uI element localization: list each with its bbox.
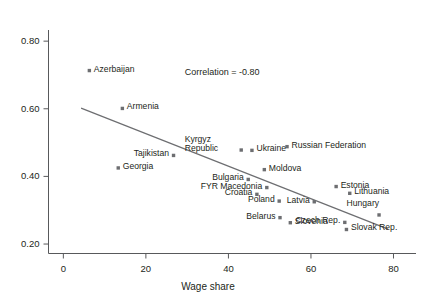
scatter-chart: 0.200.400.600.80020406080Wage shareCorre… [0,0,427,304]
data-point-label: Czech Rep. [190,216,340,226]
x-axis-tick-label: 20 [121,263,171,274]
data-point-marker [121,107,124,110]
data-point-marker [348,192,351,195]
data-point-marker [117,166,120,169]
data-point-label: Azerbaijan [94,65,244,75]
y-axis-tick-label: 0.20 [0,238,40,249]
data-point-label: Slovak Rep. [351,223,427,233]
data-point-marker [334,185,337,188]
data-point-marker [172,154,175,157]
data-point-label: Tajikistan [19,149,169,159]
y-axis-tick-label: 0.40 [0,170,40,181]
y-axis-tick-label: 0.80 [0,35,40,46]
data-point-label: Russian Federation [292,141,427,151]
x-axis-tick-label: 60 [286,263,336,274]
x-axis-tick-label: 40 [203,263,253,274]
data-point-label: Armenia [127,102,277,112]
data-point-label: Kyrgyz Republic [185,135,237,154]
data-point-label: Lithuania [354,187,427,197]
data-point-marker [345,228,348,231]
y-axis-tick-label: 0.60 [0,103,40,114]
data-point-marker [88,69,91,72]
x-axis-tick-label: 0 [38,263,88,274]
data-point-marker [240,148,243,151]
data-point-label: Hungary [229,199,379,209]
data-point-label: Georgia [123,162,273,172]
data-point-marker [265,186,268,189]
x-axis-title: Wage share [0,281,416,292]
data-point-marker [250,149,253,152]
x-axis-tick-label: 80 [368,263,418,274]
data-point-label: Moldova [269,164,419,174]
